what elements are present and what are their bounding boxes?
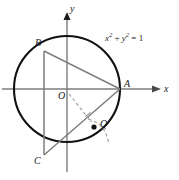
diagram-svg (0, 0, 179, 180)
point-Q-dot[interactable] (91, 124, 96, 129)
equation-equals: = (129, 33, 139, 43)
x-axis-arrow (152, 86, 161, 93)
point-label-Q: Q (100, 119, 107, 129)
x-axis-label: x (164, 84, 168, 94)
equation-plus: + (112, 33, 122, 43)
point-label-C: C (34, 156, 41, 166)
figure-canvas: y x O A B C Q x2 + y2 = 1 (0, 0, 179, 180)
y-axis-label: y (70, 4, 74, 14)
origin-label: O (58, 91, 65, 101)
equation-value: 1 (139, 33, 144, 43)
point-label-B: B (35, 38, 41, 48)
circle-equation-label: x2 + y2 = 1 (105, 32, 143, 43)
dashed-segment-OQ (69, 94, 92, 122)
point-label-A: A (124, 79, 130, 89)
